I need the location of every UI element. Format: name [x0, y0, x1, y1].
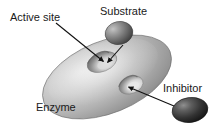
label-substrate: Substrate: [100, 5, 147, 17]
label-inhibitor: Inhibitor: [163, 82, 202, 94]
label-enzyme: Enzyme: [36, 101, 76, 113]
label-active-site: Active site: [10, 11, 60, 23]
enzyme-inhibitor-diagram: Active site Substrate Inhibitor Enzyme: [0, 0, 218, 130]
inhibitor-molecule: [170, 95, 209, 125]
